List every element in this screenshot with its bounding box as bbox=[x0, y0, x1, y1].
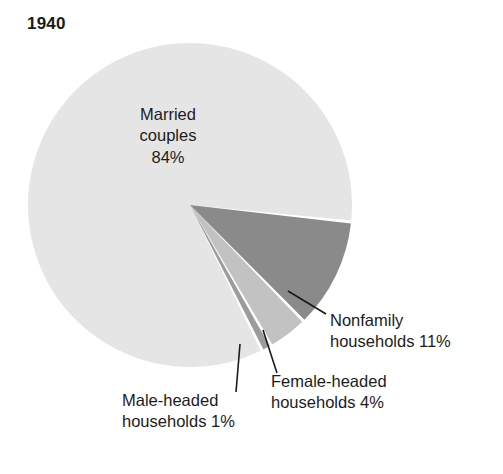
slice-label-nonfamily: Nonfamily households 11% bbox=[330, 310, 451, 353]
slice-label-male-headed: Male-headed households 1% bbox=[122, 390, 235, 433]
slice-label-line: households 4% bbox=[271, 392, 387, 413]
slice-label-line: Married bbox=[108, 104, 228, 125]
pie-chart-figure: 1940 Married couples 84% Nonfamily house… bbox=[0, 0, 503, 474]
slice-label-line: Female-headed bbox=[271, 371, 387, 392]
slice-label-line: couples bbox=[108, 125, 228, 146]
slice-label-married-couples: Married couples 84% bbox=[108, 104, 228, 168]
slice-label-female-headed: Female-headed households 4% bbox=[271, 371, 387, 414]
slice-label-line: Male-headed bbox=[122, 390, 235, 411]
slice-label-line: households 1% bbox=[122, 411, 235, 432]
pie-chart-graphic bbox=[0, 0, 503, 474]
slice-value: 84% bbox=[108, 147, 228, 168]
slice-label-line: households 11% bbox=[330, 331, 451, 352]
slice-label-line: Nonfamily bbox=[330, 310, 451, 331]
